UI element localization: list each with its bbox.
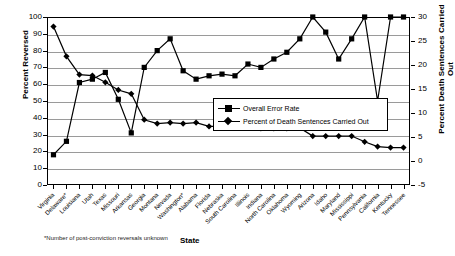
x-axis-tick-mark [248,185,249,189]
y-axis-left-tick-mark [43,135,47,136]
y-axis-right-tick-label: 0 [418,157,440,165]
gridline [48,35,409,36]
x-axis-tick-mark [313,185,314,189]
y-axis-right-tick-mark [411,17,415,18]
gridline [48,136,409,137]
x-axis-tick-mark [105,185,106,189]
y-axis-left-tick-mark [43,17,47,18]
x-axis-tick-mark [66,185,67,189]
x-axis-tick-mark [235,185,236,189]
y-axis-left-tick-mark [43,34,47,35]
x-axis-tick-mark [326,185,327,189]
y-axis-right-tick-mark [411,41,415,42]
y-axis-right-tick-label: 20 [418,61,440,69]
y-axis-left-tick-label: 0 [20,181,42,189]
x-axis-tick-mark [404,185,405,189]
gridline [48,169,409,170]
y-axis-left-tick-mark [43,118,47,119]
x-axis-tick-mark [287,185,288,189]
y-axis-left-tick-mark [43,51,47,52]
x-axis-tick-mark [157,185,158,189]
y-axis-right-tick-mark [411,89,415,90]
y-axis-left-tick-label: 30 [20,131,42,139]
x-axis-tick-mark [53,185,54,189]
legend-label: Overall Error Rate [240,105,299,112]
x-axis-tick-mark [196,185,197,189]
x-axis-tick-mark [118,185,119,189]
legend-diamond-marker-icon [218,117,240,127]
chart-container: Percent Reversed Percent Death Sentences… [0,0,455,256]
y-axis-left-tick-label: 100 [20,13,42,21]
y-axis-left-tick-label: 40 [20,114,42,122]
y-axis-left-tick-label: 20 [20,147,42,155]
y-axis-left-tick-mark [43,185,47,186]
y-axis-left-tick-label: 60 [20,80,42,88]
y-axis-left-tick-mark [43,151,47,152]
chart-legend: Overall Error Rate Percent of Death Sent… [213,98,388,131]
x-axis-tick-mark [365,185,366,189]
y-axis-left-tick-label: 70 [20,63,42,71]
gridline [48,152,409,153]
y-axis-right-tick-label: 10 [418,109,440,117]
y-axis-right-tick-mark [411,137,415,138]
x-axis-tick-mark [339,185,340,189]
x-axis-tick-mark [378,185,379,189]
y-axis-right-tick-mark [411,113,415,114]
y-axis-left-tick-label: 50 [20,97,42,105]
legend-square-marker-icon [218,104,240,114]
y-axis-left-tick-mark [43,168,47,169]
x-axis-tick-mark [300,185,301,189]
y-axis-left-tick-label: 90 [20,30,42,38]
x-axis-tick-mark [261,185,262,189]
x-axis-tick-mark [170,185,171,189]
y-axis-right-tick-label: 25 [418,37,440,45]
gridline [48,52,409,53]
y-axis-right-tick-label: 5 [418,133,440,141]
gridline [48,68,409,69]
x-axis-tick-mark [144,185,145,189]
x-axis-tick-mark [183,185,184,189]
legend-item-death-sentences-carried-out: Percent of Death Sentences Carried Out [218,115,383,128]
x-axis-tick-mark [131,185,132,189]
y-axis-right-tick-mark [411,65,415,66]
x-axis-tick-mark [222,185,223,189]
y-axis-left-tick-mark [43,84,47,85]
legend-label: Percent of Death Sentences Carried Out [240,118,369,125]
y-axis-right-tick-label: 30 [418,13,440,21]
x-axis-tick-mark [352,185,353,189]
x-axis-tick-mark [274,185,275,189]
y-axis-left-tick-mark [43,67,47,68]
y-axis-right-tick-label: 15 [418,85,440,93]
x-axis-tick-mark [79,185,80,189]
y-axis-right-tick-mark [411,161,415,162]
y-axis-right-tick-mark [411,185,415,186]
x-axis-tick-mark [92,185,93,189]
x-axis-tick-mark [209,185,210,189]
y-axis-left-tick-mark [43,101,47,102]
gridline [48,85,409,86]
legend-item-overall-error-rate: Overall Error Rate [218,102,383,115]
x-axis-tick-mark [391,185,392,189]
y-axis-left-tick-label: 10 [20,164,42,172]
y-axis-right-tick-label: -5 [418,181,440,189]
y-axis-left-tick-label: 80 [20,47,42,55]
